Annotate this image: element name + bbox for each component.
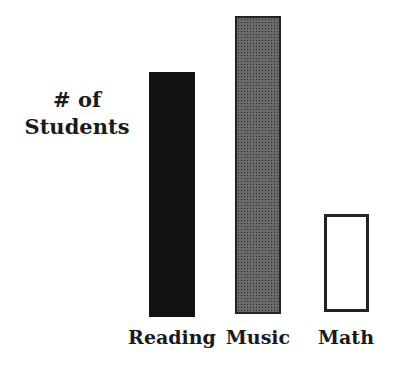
y-axis-label-line-1: # of [22, 86, 132, 113]
bar-music [235, 16, 281, 314]
y-axis-label: # of Students [22, 86, 132, 140]
x-tick-label-music: Music [213, 326, 303, 348]
bar-math [324, 214, 369, 312]
x-tick-label-reading: Reading [127, 326, 217, 348]
x-tick-label-math: Math [301, 326, 391, 348]
bar-reading [149, 72, 195, 317]
y-axis-label-line-2: Students [22, 113, 132, 140]
